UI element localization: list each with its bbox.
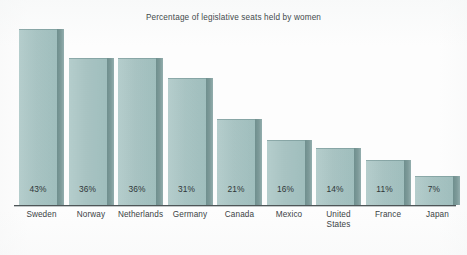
bar-rect: 36% <box>118 58 163 205</box>
bar-top-edge <box>366 160 404 161</box>
bar-front-face <box>118 58 156 205</box>
bar-top-edge <box>316 148 354 149</box>
bar-value-label: 43% <box>19 184 57 194</box>
bar-rect: 43% <box>19 29 64 205</box>
x-axis-label-line1: France <box>362 210 415 220</box>
bar-side-face <box>305 140 312 205</box>
bar-top-edge <box>267 140 305 141</box>
x-axis-label-mexico: Mexico <box>263 210 316 220</box>
bar-netherlands[interactable]: 36% <box>118 0 163 205</box>
x-axis-label-sweden: Sweden <box>15 210 68 220</box>
x-axis-label-netherlands: Netherlands <box>114 210 167 220</box>
bar-value-label: 11% <box>366 184 404 194</box>
bar-value-label: 7% <box>415 184 453 194</box>
bar-side-face <box>354 148 361 205</box>
bar-front-face <box>316 148 354 205</box>
bar-value-label: 36% <box>118 184 156 194</box>
x-axis-label-france: France <box>362 210 415 220</box>
x-axis-label-japan: Japan <box>411 210 464 220</box>
bar-side-face <box>453 176 460 205</box>
bar-value-label: 16% <box>267 184 305 194</box>
bar-side-face <box>206 78 213 205</box>
bar-side-face <box>107 58 114 205</box>
bar-rect: 16% <box>267 140 312 205</box>
bar-side-face <box>156 58 163 205</box>
bar-value-label: 31% <box>168 184 206 194</box>
bar-value-label: 36% <box>69 184 107 194</box>
x-axis-label-line1: Netherlands <box>114 210 167 220</box>
bar-front-face <box>69 58 107 205</box>
bar-sweden[interactable]: 43% <box>19 0 64 205</box>
bar-front-face <box>267 140 305 205</box>
bar-rect: 14% <box>316 148 361 205</box>
bar-chart-figure: Percentage of legislative seats held by … <box>0 0 467 255</box>
bar-norway[interactable]: 36% <box>69 0 114 205</box>
bar-value-label: 21% <box>217 184 255 194</box>
x-axis-label-line1: Norway <box>65 210 118 220</box>
bar-top-edge <box>69 58 107 59</box>
bar-rect: 7% <box>415 176 460 205</box>
x-axis-label-line1: United <box>312 210 365 220</box>
bar-rect: 21% <box>217 119 262 205</box>
bar-side-face <box>404 160 411 205</box>
bar-rect: 31% <box>168 78 213 205</box>
x-axis-label-united-states: UnitedStates <box>312 210 365 230</box>
bar-front-face <box>366 160 404 205</box>
bar-rect: 11% <box>366 160 411 205</box>
x-axis-label-line1: Japan <box>411 210 464 220</box>
bar-united-states[interactable]: 14% <box>316 0 361 205</box>
x-axis-label-line2: States <box>312 220 365 230</box>
x-axis-label-canada: Canada <box>213 210 266 220</box>
bar-japan[interactable]: 7% <box>415 0 460 205</box>
x-axis-label-norway: Norway <box>65 210 118 220</box>
x-axis-label-line1: Sweden <box>15 210 68 220</box>
bar-canada[interactable]: 21% <box>217 0 262 205</box>
x-axis-label-line1: Canada <box>213 210 266 220</box>
bar-top-edge <box>415 176 453 177</box>
x-axis-label-germany: Germany <box>164 210 217 220</box>
bar-france[interactable]: 11% <box>366 0 411 205</box>
bar-side-face <box>255 119 262 205</box>
bar-side-face <box>57 29 64 205</box>
x-axis-label-line1: Mexico <box>263 210 316 220</box>
bar-top-edge <box>217 119 255 120</box>
bar-mexico[interactable]: 16% <box>267 0 312 205</box>
x-axis-line-shadow <box>14 206 456 207</box>
bar-top-edge <box>118 58 156 59</box>
x-axis-label-line1: Germany <box>164 210 217 220</box>
bar-top-edge <box>19 29 57 30</box>
bar-rect: 36% <box>69 58 114 205</box>
bar-value-label: 14% <box>316 184 354 194</box>
bar-germany[interactable]: 31% <box>168 0 213 205</box>
bar-front-face <box>19 29 57 205</box>
bar-top-edge <box>168 78 206 79</box>
